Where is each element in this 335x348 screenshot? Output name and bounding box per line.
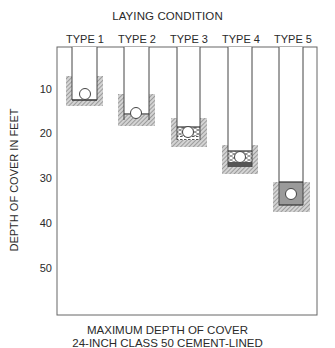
trench-type-1 xyxy=(66,47,103,106)
trench-type-5 xyxy=(273,47,310,212)
caption-line-2: 24-INCH CLASS 50 CEMENT-LINED xyxy=(0,337,335,348)
trench-type-4 xyxy=(222,47,258,174)
trench-type-2 xyxy=(118,47,155,126)
trench-diagram xyxy=(0,0,335,348)
trench-type-3 xyxy=(171,47,207,147)
caption-line-1: MAXIMUM DEPTH OF COVER xyxy=(0,324,335,336)
